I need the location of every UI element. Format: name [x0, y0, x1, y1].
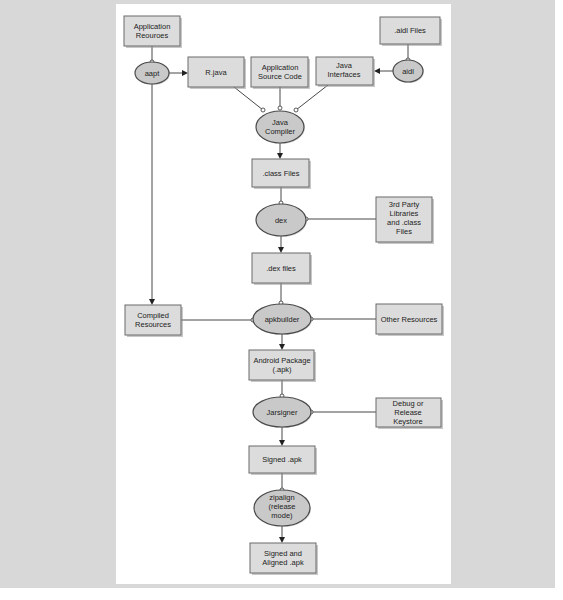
svg-text:.dex files: .dex files — [266, 264, 296, 273]
build-process-diagram: ApplicationReouroes R.java ApplicationSo… — [0, 0, 563, 600]
node-aapt: aapt — [135, 62, 170, 85]
svg-text:ApplicationReouroes: ApplicationReouroes — [134, 22, 171, 40]
arrow-icon — [279, 537, 285, 543]
arrow-icon — [279, 344, 285, 350]
svg-text:Other Resources: Other Resources — [381, 315, 438, 324]
node-compiled-resources: CompiledResources — [125, 305, 183, 337]
svg-text:R.java: R.java — [205, 68, 227, 77]
node-app-source: ApplicationSource Code — [251, 57, 310, 89]
node-app-resources: ApplicationReouroes — [124, 16, 182, 48]
svg-text:dex: dex — [275, 216, 287, 225]
node-signed-aligned-apk: Signed andAligned .apk — [250, 543, 318, 575]
svg-text:zipalign(releasemode): zipalign(releasemode) — [268, 493, 295, 520]
node-class-files: .class Files — [252, 159, 311, 189]
svg-text:Signed andAligned .apk: Signed andAligned .apk — [262, 549, 304, 567]
node-android-package: Android Package(.apk) — [249, 350, 316, 382]
arrow-icon — [277, 153, 283, 159]
node-java-compiler: JavaCompiler — [256, 111, 305, 144]
arrow-icon — [149, 299, 155, 305]
node-r-java: R.java — [188, 57, 246, 89]
edge-rjava-compiler — [234, 87, 263, 110]
node-dex-files: .dex files — [252, 253, 312, 285]
svg-text:ApplicationSource Code: ApplicationSource Code — [258, 63, 302, 81]
arrow-icon — [182, 70, 188, 76]
arrow-icon — [279, 440, 285, 446]
svg-text:.aidl Files: .aidl Files — [394, 26, 426, 35]
arrow-icon — [278, 247, 284, 253]
node-third-party: 3rd PartyLibrariesand .classFiles — [376, 197, 434, 244]
svg-text:.class Files: .class Files — [262, 169, 299, 178]
port-icon — [294, 108, 298, 112]
node-java-interfaces: JavaInterfaces — [316, 57, 375, 87]
port-icon — [261, 108, 265, 112]
svg-text:Jarsigner: Jarsigner — [267, 408, 298, 417]
svg-text:aidl: aidl — [402, 67, 414, 76]
node-apkbuilder: apkbuilder — [253, 304, 312, 335]
node-other-resources: Other Resources — [376, 304, 444, 336]
node-jarsigner: Jarsigner — [253, 397, 312, 428]
svg-text:apkbuilder: apkbuilder — [265, 315, 300, 324]
node-zipalign: zipalign(releasemode) — [254, 490, 311, 527]
node-dex: dex — [256, 204, 307, 237]
svg-text:Signed .apk: Signed .apk — [262, 455, 302, 464]
svg-text:CompiledResources: CompiledResources — [135, 311, 171, 329]
port-icon — [278, 106, 282, 110]
svg-text:aapt: aapt — [145, 69, 161, 78]
node-aidl-files: .aidl Files — [380, 17, 442, 46]
node-aidl: aidl — [393, 60, 424, 83]
svg-text:Debug orReleaseKeystore: Debug orReleaseKeystore — [393, 399, 424, 426]
node-signed-apk: Signed .apk — [249, 446, 317, 475]
node-keystore: Debug orReleaseKeystore — [376, 398, 443, 429]
